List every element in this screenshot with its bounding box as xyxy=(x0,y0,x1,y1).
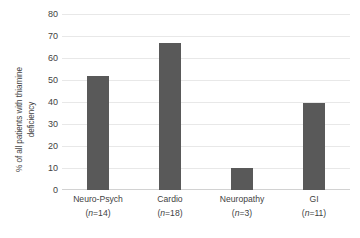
bar-slot xyxy=(278,14,350,190)
y-axis-tick-label: 30 xyxy=(48,119,58,129)
y-axis-tick-label: 0 xyxy=(53,185,58,195)
y-axis-tick-labels: 01020304050607080 xyxy=(36,14,58,190)
x-axis-tick-label-category: GI xyxy=(309,194,318,204)
count-suffix: =11) xyxy=(309,208,326,218)
y-axis-title-line-1: % of all patients with thiamine xyxy=(15,67,24,172)
bar-slot xyxy=(206,14,278,190)
x-axis-tick-label: Neuro-Psych(n=14) xyxy=(73,192,123,220)
plot-area xyxy=(62,14,350,190)
bar[interactable] xyxy=(87,76,109,190)
x-axis-tick-label-count: (n=18) xyxy=(157,206,182,220)
y-axis-tick-label: 40 xyxy=(48,97,58,107)
x-axis-tick-label-category: Cardio xyxy=(157,194,182,204)
x-axis-tick-label-count: (n=3) xyxy=(220,206,264,220)
y-axis-tick-label: 10 xyxy=(48,163,58,173)
count-suffix: =14) xyxy=(93,208,110,218)
y-axis-tick-label: 20 xyxy=(48,141,58,151)
x-axis-tick-label-count: (n=14) xyxy=(73,206,123,220)
x-axis-tick-label: Cardio(n=18) xyxy=(157,192,182,220)
y-axis-tick-label: 60 xyxy=(48,53,58,63)
y-axis-tick-label: 70 xyxy=(48,31,58,41)
y-axis-tick-label: 50 xyxy=(48,75,58,85)
bar-slot xyxy=(62,14,134,190)
x-axis-tick-label-category: Neuropathy xyxy=(220,194,264,204)
count-suffix: =18) xyxy=(165,208,182,218)
y-axis-tick-label: 80 xyxy=(48,9,58,19)
bar[interactable] xyxy=(303,103,325,190)
x-axis-tick-label: Neuropathy(n=3) xyxy=(220,192,264,220)
y-axis-title-line-2: deficiency xyxy=(26,101,35,136)
x-axis-tick-label-count: (n=11) xyxy=(302,206,326,220)
x-axis-tick-labels: Neuro-Psych(n=14)Cardio(n=18)Neuropathy(… xyxy=(62,192,350,238)
bar[interactable] xyxy=(231,168,253,190)
bar[interactable] xyxy=(159,43,181,190)
bar-chart: % of all patients with thiamine deficien… xyxy=(0,0,360,238)
bars-layer xyxy=(62,14,350,190)
count-suffix: =3) xyxy=(239,208,252,218)
bar-slot xyxy=(134,14,206,190)
x-axis-tick-label-category: Neuro-Psych xyxy=(73,194,123,204)
x-axis-tick-label: GI(n=11) xyxy=(302,192,326,220)
